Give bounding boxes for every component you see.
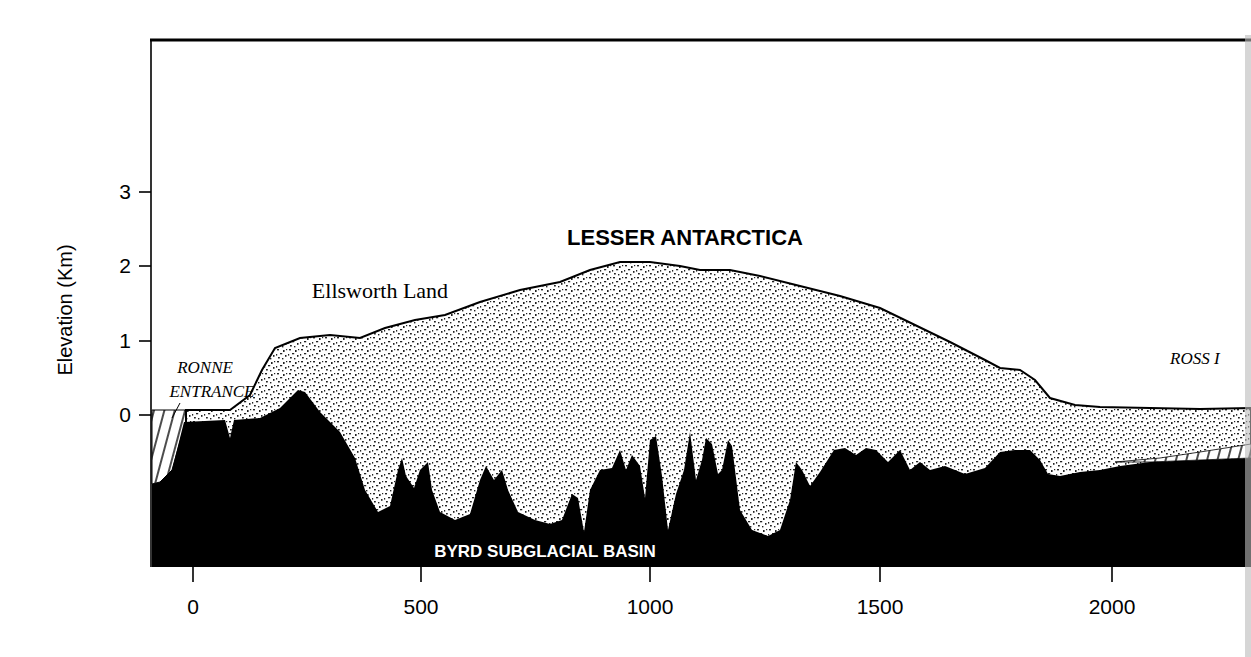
x-axis-ticks xyxy=(193,567,1112,582)
x-tick-label: 500 xyxy=(403,595,438,618)
y-axis-ticks xyxy=(139,192,151,415)
x-tick-label: 1500 xyxy=(857,595,904,618)
x-tick-label: 2000 xyxy=(1089,595,1136,618)
y-tick-label: 1 xyxy=(119,329,131,352)
ice-cross-section-diagram: 0 1 2 3 0 500 1000 1500 2000 Elevation (… xyxy=(0,0,1251,657)
ellsworth-land-label: Ellsworth Land xyxy=(312,278,448,303)
region-title: LESSER ANTARCTICA xyxy=(567,225,803,250)
x-tick-label: 1000 xyxy=(627,595,674,618)
page-edge-shadow xyxy=(1245,35,1251,657)
ronne-label-line1: RONNE xyxy=(176,358,233,377)
y-tick-label: 0 xyxy=(119,403,131,426)
ross-ice-shelf-label: ROSS I xyxy=(1169,349,1221,368)
byrd-basin-label: BYRD SUBGLACIAL BASIN xyxy=(434,542,656,561)
y-axis-label: Elevation (Km) xyxy=(54,244,76,375)
ronne-label-line2: ENTRANCE xyxy=(168,382,255,401)
y-tick-label: 3 xyxy=(119,180,131,203)
y-tick-label: 2 xyxy=(119,254,131,277)
x-tick-label: 0 xyxy=(187,595,199,618)
